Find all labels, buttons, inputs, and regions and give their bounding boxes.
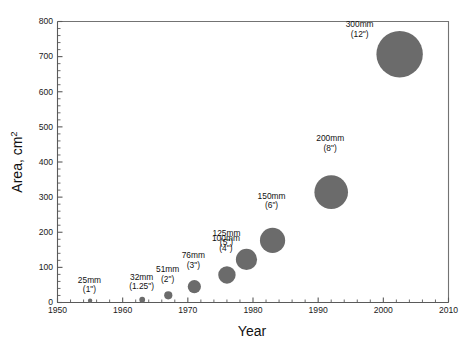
y-tick-label: 200 — [39, 227, 54, 237]
y-axis-title-text: Area, cm — [9, 137, 25, 193]
data-bubble — [376, 31, 422, 77]
x-tick-label: 1950 — [48, 305, 67, 315]
y-tick-label: 500 — [39, 122, 54, 132]
data-bubble — [314, 175, 348, 209]
data-bubble — [188, 280, 201, 293]
y-tick-label: 100 — [39, 262, 54, 272]
y-axis-title: Area, cm2 — [8, 131, 26, 192]
data-bubble — [88, 299, 92, 303]
y-tick-label: 700 — [39, 51, 54, 61]
x-tick-label: 2000 — [374, 305, 393, 315]
svg-text:Area, cm2: Area, cm2 — [8, 131, 26, 192]
y-tick-label: 800 — [39, 16, 54, 26]
x-tick-label: 1970 — [178, 305, 197, 315]
data-bubble — [260, 228, 285, 253]
data-bubble — [164, 291, 172, 299]
x-tick-label: 2010 — [439, 305, 458, 315]
y-tick-label: 300 — [39, 192, 54, 202]
x-tick-label: 1980 — [243, 305, 262, 315]
chart-canvas: 0100200300400500600700800195019601970198… — [0, 0, 476, 343]
x-axis-title: Year — [238, 323, 267, 339]
data-bubble — [139, 297, 145, 303]
y-tick-label: 600 — [39, 87, 54, 97]
bubble-chart: 0100200300400500600700800195019601970198… — [0, 0, 476, 343]
y-tick-label: 400 — [39, 157, 54, 167]
x-tick-label: 1960 — [113, 305, 132, 315]
y-axis-title-superscript: 2 — [8, 131, 19, 136]
data-bubble — [218, 266, 235, 283]
x-tick-label: 1990 — [309, 305, 328, 315]
data-point-label: 32mm(1.25") — [129, 272, 154, 292]
data-bubble — [236, 249, 257, 270]
